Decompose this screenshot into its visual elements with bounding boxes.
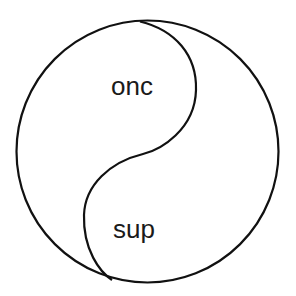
label-top: onc [111, 71, 153, 101]
label-bottom: sup [113, 214, 155, 244]
yin-yang-diagram: onc sup [0, 0, 296, 296]
